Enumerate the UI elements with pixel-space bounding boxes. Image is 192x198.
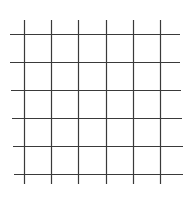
grid-diagram xyxy=(0,0,192,198)
horizontal-grid-lines xyxy=(10,35,183,175)
vertical-grid-lines xyxy=(25,20,161,184)
